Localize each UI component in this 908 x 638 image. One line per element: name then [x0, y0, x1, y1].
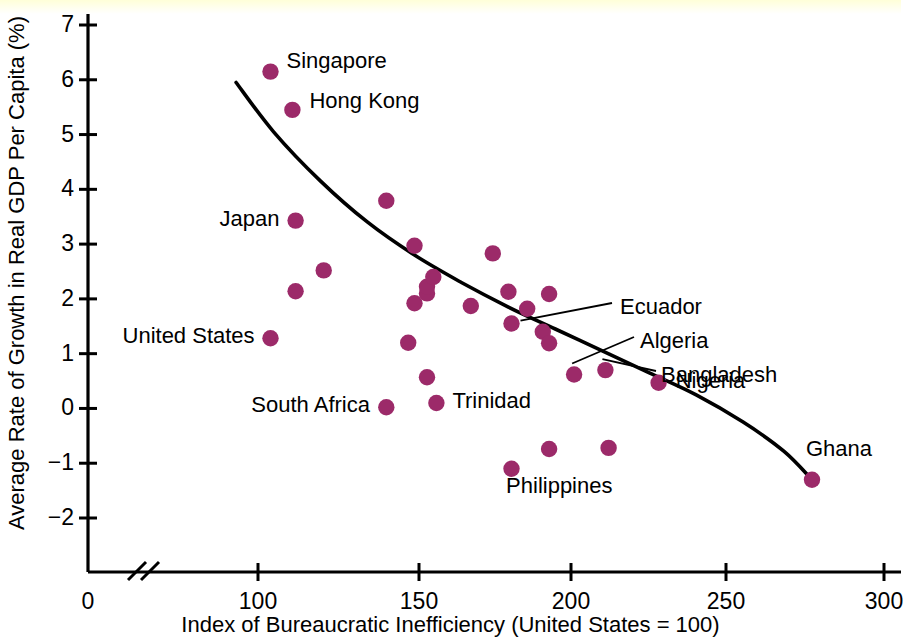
fitted-trend-curve: [236, 83, 812, 480]
data-point-ecuador[interactable]: [503, 315, 519, 331]
data-point-singapore[interactable]: [262, 63, 278, 79]
y-tick-label: 0: [36, 396, 74, 419]
data-point-south-africa[interactable]: [378, 399, 394, 415]
y-tick-label: 1: [36, 342, 74, 365]
data-point-hong-kong[interactable]: [284, 102, 300, 118]
data-point[interactable]: [419, 369, 435, 385]
data-point[interactable]: [463, 298, 479, 314]
x-tick-label: 300: [844, 590, 908, 613]
data-point[interactable]: [378, 193, 394, 209]
data-point-ghana[interactable]: [804, 472, 820, 488]
data-point-philippines[interactable]: [541, 441, 557, 457]
x-tick-label: 250: [686, 590, 766, 613]
point-label-philippines: Philippines: [506, 475, 612, 497]
data-point[interactable]: [519, 301, 535, 317]
data-point[interactable]: [541, 335, 557, 351]
data-point-united-states[interactable]: [262, 330, 278, 346]
point-label-singapore: Singapore: [287, 50, 387, 72]
x-tick-label: 200: [531, 590, 611, 613]
point-label-south-africa: South Africa: [251, 394, 370, 416]
point-label-japan: Japan: [220, 208, 280, 230]
data-point-trinidad[interactable]: [428, 395, 444, 411]
point-label-hong-kong: Hong Kong: [309, 90, 419, 112]
data-point-bangladesh[interactable]: [597, 362, 613, 378]
x-tick-label: 150: [379, 590, 459, 613]
data-point[interactable]: [287, 283, 303, 299]
point-label-ecuador: Ecuador: [620, 296, 702, 318]
point-label-algeria: Algeria: [640, 330, 708, 352]
data-point[interactable]: [600, 440, 616, 456]
point-label-nigeria: Nigeria: [676, 370, 746, 392]
point-label-ghana: Ghana: [806, 438, 872, 460]
y-tick-label: 5: [36, 123, 74, 146]
x-axis-label: Index of Bureaucratic Inefficiency (Unit…: [0, 612, 901, 638]
data-point-algeria[interactable]: [566, 366, 582, 382]
y-tick-label: −2: [36, 506, 74, 529]
y-tick-label: 2: [36, 287, 74, 310]
point-label-united-states: United States: [123, 325, 255, 347]
x-tick-label: 0: [48, 590, 128, 613]
data-point[interactable]: [316, 262, 332, 278]
point-label-trinidad: Trinidad: [452, 390, 531, 412]
y-tick-label: 4: [36, 177, 74, 200]
data-point[interactable]: [541, 286, 557, 302]
y-tick-label: 7: [36, 13, 74, 36]
data-point[interactable]: [500, 284, 516, 300]
y-tick-label: 3: [36, 232, 74, 255]
data-point-japan[interactable]: [287, 212, 303, 228]
data-point[interactable]: [425, 269, 441, 285]
y-axis-label: Average Rate of Growth in Real GDP Per C…: [4, 16, 30, 530]
data-point[interactable]: [406, 238, 422, 254]
x-tick-label: 100: [218, 590, 298, 613]
y-tick-label: −1: [36, 451, 74, 474]
data-point[interactable]: [485, 245, 501, 261]
data-point[interactable]: [400, 335, 416, 351]
y-tick-label: 6: [36, 68, 74, 91]
